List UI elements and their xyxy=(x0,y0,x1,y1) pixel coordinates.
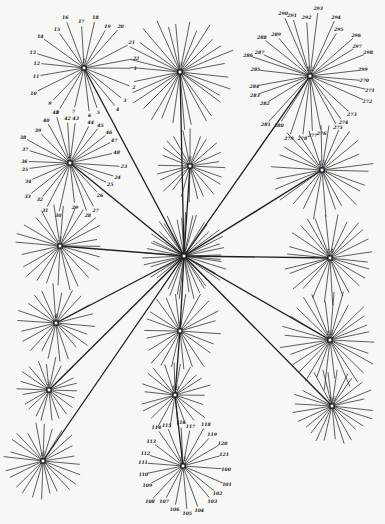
leaf-label: 19 xyxy=(104,24,111,29)
ray xyxy=(47,163,70,206)
ray xyxy=(291,76,310,134)
ray xyxy=(175,395,205,418)
cluster-label: 15 xyxy=(326,329,334,336)
hub-node-icon xyxy=(178,70,182,74)
hub-node-icon xyxy=(330,404,334,408)
leaf-label: 12 xyxy=(34,61,40,66)
leaf-label: 278 xyxy=(297,136,308,141)
ray xyxy=(31,323,56,350)
cluster-label: 4 xyxy=(53,312,58,319)
leaf-label: 30 xyxy=(55,213,62,218)
hub-links xyxy=(43,68,332,466)
ray xyxy=(49,390,77,391)
leaf-label: 24 xyxy=(113,175,120,180)
leaf-label: 25 xyxy=(106,182,113,187)
leaf-label: 109 xyxy=(143,483,153,488)
cluster-15: 15 xyxy=(280,292,374,390)
leaf-label: 17 xyxy=(78,19,85,24)
leaf-label: 112 xyxy=(141,451,151,456)
cluster-label: 14 xyxy=(326,247,334,254)
leaf-label: 100 xyxy=(221,467,231,472)
hub-node-icon xyxy=(47,388,51,392)
leaf-label: 40 xyxy=(43,118,50,123)
ray xyxy=(49,390,66,414)
leaf-label: 35 xyxy=(22,167,28,172)
leaf-label: 33 xyxy=(24,194,31,199)
hub-node-icon xyxy=(178,329,182,333)
leaf-label: 14 xyxy=(37,34,43,39)
ray xyxy=(190,166,203,196)
hub-node-icon xyxy=(58,244,62,248)
ray xyxy=(299,340,330,372)
leaf-label: 9 xyxy=(48,101,52,106)
cluster-label: 10 xyxy=(171,384,179,391)
ray xyxy=(131,60,180,72)
ray xyxy=(280,340,330,348)
ray xyxy=(173,72,180,123)
leaf-label: 286 xyxy=(242,53,253,58)
ray xyxy=(310,34,336,76)
cluster-16: 16 xyxy=(293,370,372,443)
ray xyxy=(41,390,49,420)
ray xyxy=(48,323,56,358)
leaf-label: 18 xyxy=(92,15,99,20)
ray xyxy=(17,389,49,390)
ray xyxy=(70,163,119,166)
ray xyxy=(183,466,187,508)
ray xyxy=(60,246,70,290)
leaf-label: 102 xyxy=(213,491,223,496)
ray xyxy=(84,68,89,111)
leaf-label: 272 xyxy=(362,99,373,104)
ray xyxy=(145,330,180,331)
ray xyxy=(164,166,190,191)
ray xyxy=(291,340,330,354)
leaf-label: 275 xyxy=(332,125,343,130)
leaf-label: 7 xyxy=(72,109,76,114)
cluster-label: 13 xyxy=(318,159,326,166)
leaf-label: 10 xyxy=(30,91,37,96)
leaf-label: 105 xyxy=(182,511,192,516)
leaf-label: 117 xyxy=(186,424,196,429)
ray xyxy=(330,340,363,373)
ray xyxy=(60,210,83,246)
leaf-label: 118 xyxy=(201,422,211,427)
ray xyxy=(293,340,330,365)
cluster-1: 123456789101112131415161718192021221 xyxy=(30,15,140,118)
leaf-label: 115 xyxy=(162,423,172,428)
hub-node-icon xyxy=(68,161,72,165)
leaf-label: 277 xyxy=(307,133,318,138)
leaf-label: 101 xyxy=(222,482,232,487)
cluster-label: 16 xyxy=(328,395,336,402)
hub-node-icon xyxy=(328,256,332,260)
leaf-label: 3 xyxy=(123,98,127,103)
leaf-label: 288 xyxy=(256,35,267,40)
leaf-label: 31 xyxy=(42,208,48,213)
leaf-label: 36 xyxy=(21,159,28,164)
ray xyxy=(37,246,60,280)
ray xyxy=(24,246,60,267)
ray xyxy=(282,76,310,121)
ray xyxy=(330,307,364,340)
leaf-label: 281 xyxy=(260,122,271,127)
ray xyxy=(29,162,70,163)
leaf-label: 120 xyxy=(218,441,228,446)
hub-node-icon xyxy=(328,338,332,342)
ray xyxy=(60,246,88,277)
cluster-14: 14 xyxy=(285,215,371,305)
ray xyxy=(157,21,180,72)
ray xyxy=(175,378,201,395)
ray xyxy=(149,331,180,350)
ray xyxy=(158,165,190,166)
leaf-label: 34 xyxy=(25,179,31,184)
leaf-label: 111 xyxy=(138,460,148,465)
ray xyxy=(60,34,84,68)
leaf-label: 44 xyxy=(88,120,94,125)
cluster-9: 9 xyxy=(145,294,221,368)
leaf-label: 270 xyxy=(358,78,369,83)
leaf-label: 103 xyxy=(208,499,218,504)
ray xyxy=(84,30,117,68)
leaf-label: 46 xyxy=(106,130,113,135)
hub-node-icon xyxy=(188,164,192,168)
ray xyxy=(47,246,60,283)
leaf-label: 38 xyxy=(20,135,27,140)
